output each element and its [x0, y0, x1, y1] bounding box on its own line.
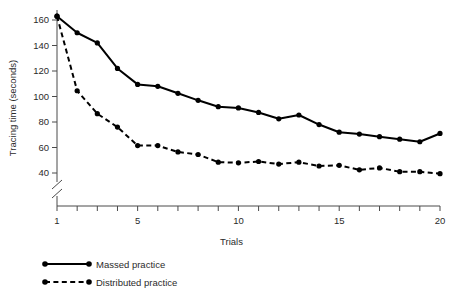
data-point [417, 139, 422, 144]
data-point [337, 163, 342, 168]
data-point [437, 171, 442, 176]
data-point [417, 169, 422, 174]
data-point [216, 104, 221, 109]
data-point [236, 160, 241, 165]
data-point [276, 161, 281, 166]
data-point [256, 110, 261, 115]
data-point [337, 130, 342, 135]
legend-marker-start [42, 261, 48, 267]
legend-marker-end [86, 279, 92, 285]
y-tick-label: 60 [38, 142, 49, 153]
data-point [196, 152, 201, 157]
data-point [95, 40, 100, 45]
data-point [75, 30, 80, 35]
x-tick-label: 5 [135, 215, 140, 226]
y-tick-label: 120 [33, 65, 49, 76]
legend: Massed practiceDistributed practice [42, 259, 177, 288]
legend-item: Distributed practice [42, 277, 177, 288]
data-point [296, 112, 301, 117]
line-chart: 40608010012014016015101520Tracing time (… [0, 0, 454, 293]
legend-label: Distributed practice [96, 277, 177, 288]
data-point [75, 88, 80, 93]
data-point [54, 14, 59, 19]
y-tick-label: 160 [33, 14, 49, 25]
data-point [397, 137, 402, 142]
data-point [155, 84, 160, 89]
chart-figure: 40608010012014016015101520Tracing time (… [0, 0, 454, 293]
data-point [357, 167, 362, 172]
axes-group [52, 10, 440, 206]
data-point [236, 105, 241, 110]
data-point [155, 143, 160, 148]
x-tick-label: 1 [54, 215, 59, 226]
data-point [377, 165, 382, 170]
series-line-solid [57, 16, 440, 142]
data-point [175, 149, 180, 154]
data-point [115, 125, 120, 130]
legend-item: Massed practice [42, 259, 165, 270]
y-axis-title: Tracing time (seconds) [7, 60, 18, 156]
data-point [276, 116, 281, 121]
y-tick-label: 80 [38, 116, 49, 127]
y-tick-label: 40 [38, 167, 49, 178]
x-tick-label: 20 [435, 215, 446, 226]
y-axis-ticks: 406080100120140160 [33, 14, 57, 178]
data-point [437, 131, 442, 136]
legend-marker-start [42, 279, 48, 285]
series-line-dashed [57, 16, 440, 173]
data-point [216, 160, 221, 165]
series-2 [54, 14, 442, 177]
legend-label: Massed practice [96, 259, 165, 270]
y-tick-label: 100 [33, 91, 49, 102]
x-axis-title: Trials [220, 236, 243, 247]
legend-marker-end [86, 261, 92, 267]
data-point [357, 132, 362, 137]
data-point [115, 66, 120, 71]
axis-break-icon [52, 180, 62, 198]
x-tick-label: 10 [233, 215, 244, 226]
data-point [316, 122, 321, 127]
data-point [196, 98, 201, 103]
data-point [397, 169, 402, 174]
data-point [377, 134, 382, 139]
data-point [256, 159, 261, 164]
data-point [296, 160, 301, 165]
data-point [95, 111, 100, 116]
x-tick-label: 15 [334, 215, 345, 226]
data-point [316, 163, 321, 168]
x-axis-ticks: 15101520 [54, 206, 445, 226]
y-tick-label: 140 [33, 40, 49, 51]
data-point [135, 82, 140, 87]
data-point [135, 143, 140, 148]
data-point [175, 91, 180, 96]
